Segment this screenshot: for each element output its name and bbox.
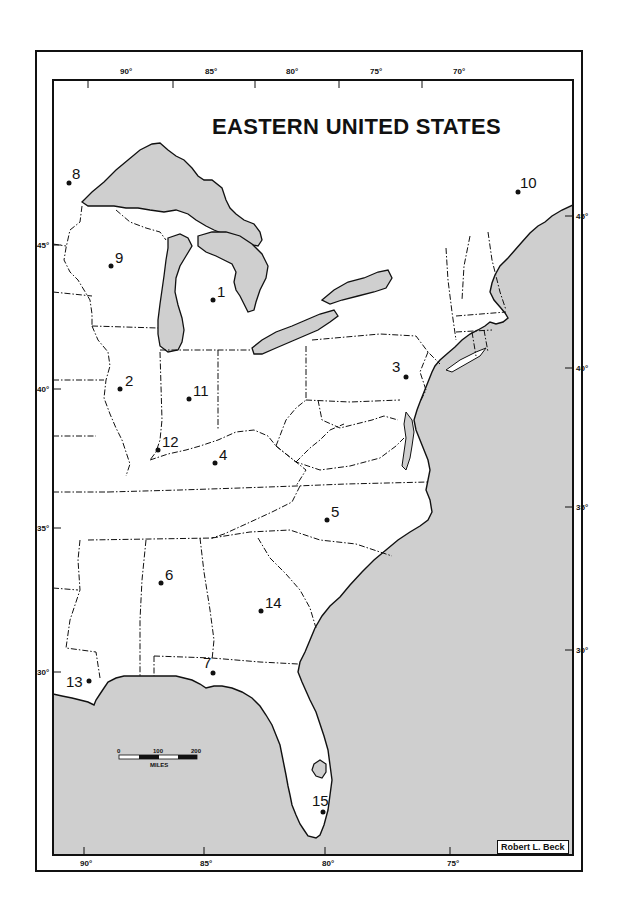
lat-label-left-40: 40° <box>37 385 49 394</box>
lon-label-top-80: 80° <box>286 67 298 76</box>
lon-label-bottom-75: 75° <box>447 859 459 868</box>
svg-text:7: 7 <box>203 654 211 671</box>
map-canvas: 90° 85° 80° 75° 70° 90° 85° 80° 75° 45° … <box>0 0 628 921</box>
lon-label-top-90: 90° <box>120 67 132 76</box>
lon-label-top-70: 70° <box>453 67 465 76</box>
map-title: EASTERN UNITED STATES <box>212 114 501 139</box>
svg-text:100: 100 <box>153 748 164 754</box>
svg-text:200: 200 <box>191 748 202 754</box>
svg-text:15: 15 <box>312 792 329 809</box>
lon-label-top-75: 75° <box>370 67 382 76</box>
lat-label-right-45: 45° <box>576 212 588 221</box>
svg-text:12: 12 <box>162 433 179 450</box>
lat-label-right-35: 35° <box>576 503 588 512</box>
author-credit: Robert L. Beck <box>497 840 569 854</box>
svg-text:1: 1 <box>217 283 225 300</box>
lat-label-right-40: 40° <box>576 364 588 373</box>
svg-text:11: 11 <box>193 382 209 399</box>
svg-text:3: 3 <box>392 358 400 375</box>
svg-text:5: 5 <box>331 503 339 520</box>
lon-label-bottom-90: 90° <box>80 859 92 868</box>
lon-label-bottom-80: 80° <box>322 859 334 868</box>
svg-text:6: 6 <box>165 566 173 583</box>
lat-label-left-45: 45° <box>37 241 49 250</box>
lat-label-left-30: 30° <box>37 668 49 677</box>
svg-text:9: 9 <box>115 249 123 266</box>
svg-text:8: 8 <box>72 165 80 182</box>
svg-text:10: 10 <box>520 174 537 191</box>
svg-text:14: 14 <box>265 594 282 611</box>
lon-label-top-85: 85° <box>205 67 217 76</box>
svg-text:4: 4 <box>219 446 227 463</box>
lat-label-right-30: 30° <box>576 646 588 655</box>
lat-label-left-35: 35° <box>37 524 49 533</box>
lon-label-bottom-85: 85° <box>200 859 212 868</box>
svg-text:13: 13 <box>66 673 83 690</box>
svg-text:2: 2 <box>125 372 133 389</box>
svg-text:MILES: MILES <box>150 762 168 768</box>
